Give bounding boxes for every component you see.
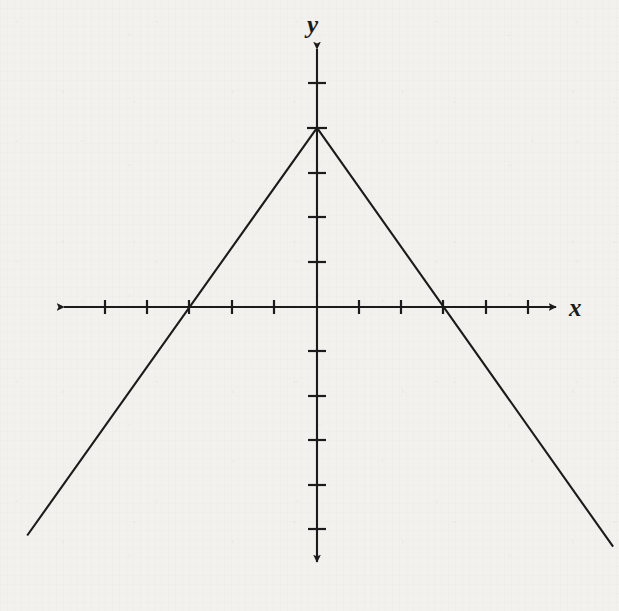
y-axis-label: y — [307, 12, 318, 37]
graph-figure: y x — [0, 0, 619, 611]
function-curve — [27, 128, 613, 547]
coordinate-plane-svg — [0, 0, 619, 611]
x-axis-label: x — [569, 295, 582, 320]
